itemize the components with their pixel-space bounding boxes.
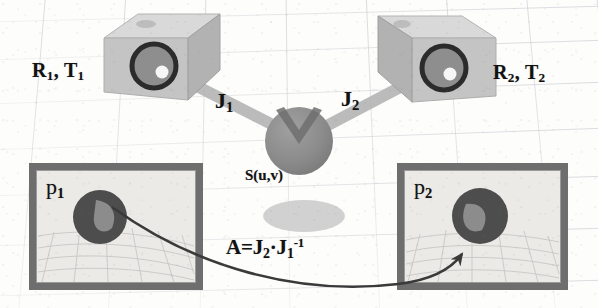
- warp-formula-label: A=J2·J1-1: [226, 236, 304, 260]
- formula-j2: J: [253, 235, 263, 259]
- surface-point-text: S(u,v): [245, 167, 283, 183]
- plane-right-letter: p: [414, 174, 425, 199]
- formula-dot: ·: [270, 235, 277, 259]
- image-plane-left-label: p1: [46, 176, 64, 200]
- ray-right-subscript: 2: [352, 97, 359, 113]
- pose-left-r: R: [32, 59, 47, 81]
- pose-right-r-sub: 2: [508, 70, 515, 85]
- image-plane-right[interactable]: p2: [397, 163, 568, 290]
- stereo-jacobian-figure: p1: [0, 0, 598, 308]
- pose-left-comma: ,: [54, 59, 59, 81]
- pose-left-r-sub: 1: [47, 68, 54, 83]
- plane-left-letter: p: [46, 174, 57, 199]
- plane-left-subscript: 1: [57, 185, 64, 201]
- formula-a-equals: A=: [226, 235, 253, 259]
- formula-j1-sup: -1: [294, 235, 304, 250]
- ray-right-letter: J: [341, 86, 352, 111]
- formula-j1: J: [277, 235, 287, 259]
- camera-right-pose-label: R2, T2: [493, 62, 545, 85]
- pose-right-r: R: [493, 61, 508, 83]
- pose-right-t: T: [525, 61, 539, 83]
- surface-point-label: S(u,v): [245, 168, 283, 183]
- ray-left-label: J1: [215, 90, 233, 114]
- image-plane-left[interactable]: p1: [29, 163, 203, 290]
- pose-left-t: T: [64, 59, 78, 81]
- ray-left-letter: J: [215, 88, 226, 113]
- ray-left-subscript: 1: [226, 99, 233, 115]
- pose-right-comma: ,: [515, 61, 520, 83]
- image-plane-right-label: p2: [414, 176, 432, 200]
- formula-j2-sub: 2: [263, 246, 270, 261]
- ray-right-label: J2: [341, 88, 359, 112]
- camera-right: [372, 8, 504, 112]
- formula-j1-sub: 1: [287, 246, 294, 261]
- surface-point-shadow: [258, 196, 350, 240]
- pose-left-t-sub: 1: [78, 68, 85, 83]
- camera-left: [96, 8, 226, 112]
- camera-left-pose-label: R1, T1: [32, 60, 84, 83]
- plane-right-subscript: 2: [425, 185, 432, 201]
- pose-right-t-sub: 2: [539, 70, 546, 85]
